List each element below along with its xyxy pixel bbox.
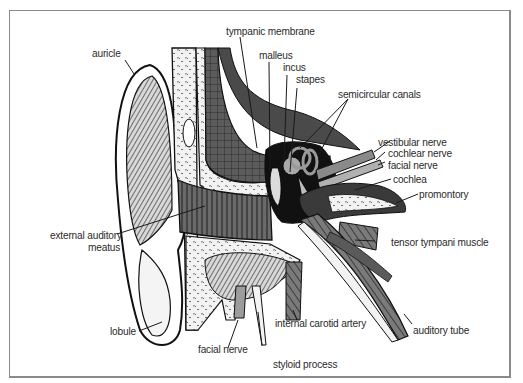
label-promontory: promontory <box>419 188 468 200</box>
label-internal-carotid-artery: internal carotid artery <box>275 317 366 329</box>
label-auditory-tube: auditory tube <box>413 324 469 336</box>
label-facial-nerve-upper: facial nerve <box>388 159 438 171</box>
label-auricle: auricle <box>92 47 121 59</box>
facial-nerve-lower-shape <box>234 286 246 318</box>
label-cochlear-nerve: cochlear nerve <box>388 147 452 159</box>
label-external-auditory-meatus-line2: meatus <box>88 241 120 253</box>
label-lobule: lobule <box>110 325 136 337</box>
label-tensor-tympani-muscle: tensor tympani muscle <box>391 236 489 248</box>
label-stapes: stapes <box>296 73 325 85</box>
label-incus: incus <box>283 61 306 73</box>
label-facial-nerve-lower: facial nerve <box>198 343 248 355</box>
label-tympanic-membrane: tympanic membrane <box>226 25 315 37</box>
label-external-auditory-meatus-line1: external auditory <box>50 229 122 241</box>
muscle-region <box>205 253 290 300</box>
label-semicircular-canals: semicircular canals <box>338 88 421 100</box>
label-styloid-process: styloid process <box>273 358 337 370</box>
label-malleus: malleus <box>259 49 293 61</box>
label-cochlea: cochlea <box>393 173 427 185</box>
styloid-process-shape <box>252 286 266 345</box>
